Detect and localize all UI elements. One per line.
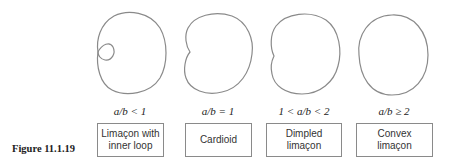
figure-caption: Figure 11.1.19 (12, 143, 75, 154)
condition-dimpled: 1 < a/b < 2 (266, 105, 342, 117)
label-box-cardioid: Cardioid (185, 123, 252, 157)
label-box-convex: Convex limaçon (356, 123, 433, 157)
label-line-1: Cardioid (200, 134, 237, 146)
label-line-1: Dimpled limaçon (269, 128, 339, 152)
label-box-dimpled: Dimpled limaçon (266, 123, 342, 157)
condition-convex: a/b ≥ 2 (356, 105, 432, 117)
label-box-inner-loop: Limaçon with inner loop (97, 123, 164, 157)
condition-inner-loop: a/b < 1 (97, 105, 163, 117)
curve-limacon-inner-loop (98, 12, 166, 93)
curve-inner-loop (98, 44, 114, 60)
label-line-1: Convex limaçon (359, 128, 430, 152)
label-line-1: Limaçon with (101, 128, 159, 140)
label-line-2: inner loop (101, 140, 159, 152)
curve-convex-limacon (359, 15, 428, 95)
curve-dimpled-limacon (271, 14, 340, 94)
condition-cardioid: a/b = 1 (185, 105, 251, 117)
curve-cardioid (185, 14, 253, 94)
